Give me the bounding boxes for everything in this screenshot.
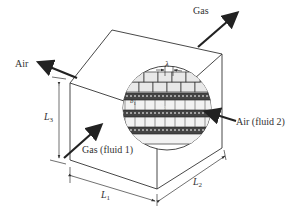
air-out-label: Air bbox=[15, 59, 28, 69]
L2-dimension bbox=[160, 150, 226, 200]
gas-out-arrow bbox=[198, 14, 236, 47]
L1-dimension bbox=[70, 167, 157, 206]
heat-exchanger-diagram bbox=[0, 0, 304, 214]
L1-label: L1 bbox=[101, 190, 110, 202]
air-in-arrow bbox=[207, 112, 236, 121]
L3-label: L3 bbox=[44, 112, 53, 124]
air-out-arrow bbox=[40, 63, 77, 78]
b1-label: b1 bbox=[130, 98, 136, 106]
gas-out-label: Gas bbox=[193, 6, 209, 16]
air-in-label: Air (fluid 2) bbox=[236, 117, 285, 127]
L2-label: L2 bbox=[193, 177, 202, 189]
gas-in-label: Gas (fluid 1) bbox=[82, 145, 133, 155]
lambda-label: λ bbox=[165, 60, 169, 69]
core-cutaway-detail bbox=[120, 66, 215, 150]
b2-label: b2 bbox=[160, 102, 166, 110]
